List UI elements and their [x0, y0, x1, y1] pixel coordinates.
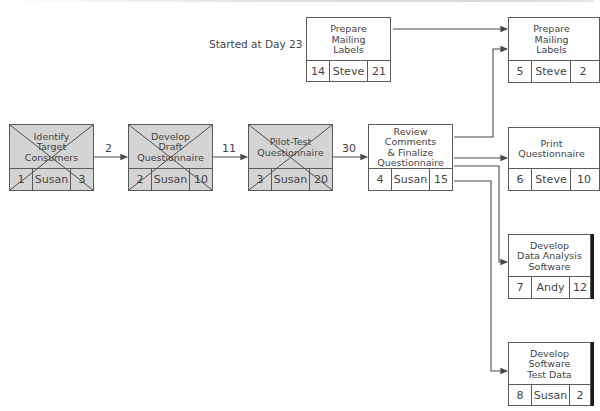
task-number: 1	[10, 169, 33, 190]
task-owner: Susan	[532, 385, 570, 405]
arrow-4-to-5	[454, 49, 507, 137]
task-duration: 2	[570, 385, 590, 405]
task-number: 8	[509, 385, 532, 405]
task-number: 5	[509, 61, 532, 82]
task-owner: Susan	[392, 169, 430, 190]
task-owner: Susan	[33, 169, 71, 190]
task-duration: 2	[571, 61, 595, 82]
task-title: Prepare Mailing Labels	[509, 18, 594, 62]
task-node-pilot-test-questionnaire[interactable]: Pilot-Test Questionnaire 3 Susan 20	[248, 124, 333, 191]
task-owner: Steve	[532, 61, 571, 82]
task-duration: 20	[310, 169, 332, 190]
task-node-prepare-mailing-labels-5[interactable]: Prepare Mailing Labels 5 Steve 2	[508, 17, 600, 83]
start-annotation: Started at Day 23	[209, 38, 302, 50]
task-title: Pilot-Test Questionnaire	[249, 125, 332, 170]
task-number: 7	[509, 277, 532, 298]
task-owner: Susan	[272, 169, 310, 190]
task-owner: Steve	[330, 61, 368, 81]
task-duration: 10	[190, 169, 212, 190]
task-title: Identify Target Consumers	[10, 125, 93, 170]
task-info-row: 8 Susan 2	[509, 384, 590, 405]
task-info-row: 5 Steve 2	[509, 60, 599, 82]
task-duration: 15	[430, 169, 452, 190]
task-number: 6	[509, 169, 532, 190]
lag-label-1-2: 2	[105, 142, 112, 155]
task-node-prepare-mailing-labels-14[interactable]: Prepare Mailing Labels 14 Steve 21	[306, 17, 391, 82]
task-node-develop-software-test-data[interactable]: Develop Software Test Data 8 Susan 2	[508, 342, 591, 406]
task-duration: 12	[570, 277, 590, 298]
task-info-row: 3 Susan 20	[249, 168, 332, 190]
lag-label-2-3: 11	[222, 142, 236, 155]
task-node-develop-draft-questionnaire[interactable]: Develop Draft Questionnaire 2 Susan 10	[128, 124, 213, 191]
lag-label-3-4: 30	[342, 142, 356, 155]
task-owner: Steve	[532, 169, 571, 190]
task-info-row: 14 Steve 21	[307, 60, 390, 81]
task-info-row: 1 Susan 3	[10, 168, 93, 190]
arrow-4-to-7	[454, 166, 507, 262]
task-node-print-questionnaire[interactable]: Print Questionnaire 6 Steve 10	[508, 127, 600, 191]
task-info-row: 6 Steve 10	[509, 168, 599, 190]
task-owner: Susan	[152, 169, 190, 190]
task-node-identify-target-consumers[interactable]: Identify Target Consumers 1 Susan 3	[9, 124, 94, 191]
task-duration: 10	[571, 169, 597, 190]
task-node-develop-data-analysis-software[interactable]: Develop Data Analysis Software 7 Andy 12	[508, 234, 591, 299]
task-info-row: 4 Susan 15	[369, 168, 452, 190]
task-info-row: 2 Susan 10	[129, 168, 212, 190]
task-title: Prepare Mailing Labels	[307, 18, 390, 62]
task-number: 2	[129, 169, 152, 190]
task-number: 14	[307, 61, 330, 81]
task-title: Develop Draft Questionnaire	[129, 125, 212, 170]
task-node-review-comments-finalize[interactable]: Review Comments & Finalize Questionnaire…	[368, 124, 453, 191]
task-title: Develop Software Test Data	[509, 343, 590, 386]
task-owner: Andy	[532, 277, 570, 298]
task-duration: 21	[368, 61, 390, 81]
task-title: Print Questionnaire	[509, 128, 594, 170]
task-duration: 3	[71, 169, 93, 190]
task-number: 3	[249, 169, 272, 190]
task-number: 4	[369, 169, 392, 190]
task-title: Develop Data Analysis Software	[509, 235, 590, 278]
task-title: Review Comments & Finalize Questionnaire	[369, 125, 452, 170]
task-info-row: 7 Andy 12	[509, 276, 590, 298]
